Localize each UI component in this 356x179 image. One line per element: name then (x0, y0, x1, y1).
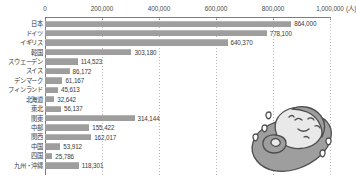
category-label: 日本 (31, 19, 43, 28)
bar (45, 134, 91, 140)
bar (45, 106, 61, 112)
bar-value-label: 155,422 (92, 123, 114, 132)
x-tick-label-1: 200,000 (91, 5, 113, 13)
category-label: スウェーデン (8, 57, 43, 66)
category-label: デンマーク (14, 76, 43, 85)
bar-row: デンマーク61,167 (45, 76, 330, 85)
bar (45, 39, 228, 45)
x-tick-label-4: 800,000 (262, 5, 284, 13)
x-tick-label-5: 1,000,000 (316, 5, 344, 13)
category-label: イギリス (20, 38, 43, 47)
bar-value-label: 61,167 (65, 76, 84, 85)
x-tick-label-0: 0 (43, 5, 46, 13)
x-tick-label-3: 600,000 (205, 5, 227, 13)
category-label: 北海道 (26, 95, 43, 104)
bar (45, 68, 70, 74)
bar-row: スウェーデン114,523 (45, 57, 330, 66)
bar-row: 韓国303,180 (45, 47, 330, 56)
category-label: ドイツ (26, 29, 43, 38)
bar-value-label: 86,172 (73, 67, 92, 76)
bar-row: 日本864,000 (45, 19, 330, 28)
bar-row: ドイツ778,100 (45, 28, 330, 37)
bar-value-label: 162,017 (94, 133, 116, 142)
bar-value-label: 778,100 (270, 29, 292, 38)
bar-value-label: 25,786 (55, 152, 74, 161)
category-label: 中国 (31, 142, 43, 151)
bar (45, 77, 62, 83)
bar-row: スイス86,172 (45, 66, 330, 75)
category-label: 中部 (31, 123, 43, 132)
bar (45, 58, 78, 64)
bar-row: イギリス640,370 (45, 38, 330, 47)
bar-value-label: 45,613 (61, 85, 80, 94)
x-axis-line (45, 17, 330, 18)
bar (45, 143, 60, 149)
x-axis-tick-labels: 0 200,000 400,000 600,000 800,000 1,000,… (45, 5, 330, 17)
bar-value-label: 303,180 (134, 48, 156, 57)
bar-value-label: 864,000 (294, 19, 316, 28)
bar (45, 21, 291, 27)
category-label: フィンランド (8, 85, 43, 94)
bar-value-label: 32,642 (57, 95, 76, 104)
bar (45, 96, 54, 102)
bar-value-label: 314,144 (138, 114, 160, 123)
category-label: 東北 (31, 104, 43, 113)
category-label: 九州・沖縄 (14, 161, 43, 170)
bar (45, 30, 267, 36)
bar (45, 162, 79, 168)
bar-value-label: 114,523 (81, 57, 103, 66)
bar (45, 49, 131, 55)
bar (45, 124, 89, 130)
bar (45, 153, 52, 159)
bar-value-label: 640,370 (231, 38, 253, 47)
x-axis-unit-label: (人) (346, 5, 356, 13)
category-label: 四国 (31, 151, 43, 160)
bar (45, 115, 135, 121)
x-tick-label-2: 400,000 (148, 5, 170, 13)
bar-value-label: 53,912 (63, 142, 82, 151)
bar (45, 87, 58, 93)
category-label: 関西 (31, 132, 43, 141)
bar-value-label: 118,301 (82, 161, 104, 170)
category-label: 韓国 (31, 48, 43, 57)
bar-value-label: 56,137 (64, 104, 83, 113)
sweating-bean-character-illustration (243, 95, 338, 179)
category-label: スイス (26, 66, 43, 75)
bar-row: フィンランド45,613 (45, 85, 330, 94)
category-label: 関東 (31, 114, 43, 123)
